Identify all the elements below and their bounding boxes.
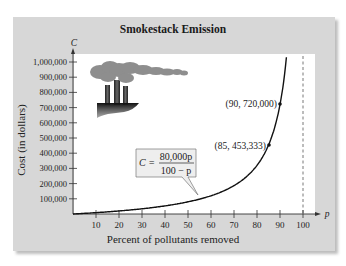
- y-tick-label: 700,000: [39, 103, 67, 113]
- y-tick-label: 1,000,000: [33, 57, 67, 67]
- x-tick-label: 10: [92, 220, 102, 230]
- y-tick-label: 800,000: [39, 87, 67, 97]
- x-tick-label: 30: [138, 220, 148, 230]
- x-tick-label: 90: [276, 220, 286, 230]
- chart-svg: C p 100,000200,000300,000400,000500,0006…: [0, 0, 346, 266]
- x-tick-label: 100: [296, 220, 310, 230]
- point-85: [267, 143, 271, 147]
- y-tick-label: 500,000: [39, 133, 67, 143]
- y-axis-ticks: 100,000200,000300,000400,000500,000600,0…: [33, 57, 77, 204]
- formula-lhs: C =: [139, 157, 155, 168]
- formula-callout: C = 80,000p 100 − p: [136, 149, 198, 195]
- x-axis-ticks: 102030405060708090100: [92, 210, 311, 230]
- y-tick-label: 400,000: [39, 148, 67, 158]
- x-axis: [73, 212, 321, 216]
- y-tick-label: 300,000: [39, 163, 67, 173]
- x-tick-label: 50: [184, 220, 194, 230]
- y-tick-label: 900,000: [39, 72, 67, 82]
- x-tick-label: 80: [253, 220, 263, 230]
- point-90: [278, 102, 282, 106]
- y-tick-label: 200,000: [39, 179, 67, 189]
- formula-denominator: 100 − p: [161, 165, 192, 176]
- y-axis-var: C: [71, 38, 78, 48]
- x-tick-label: 70: [230, 220, 240, 230]
- x-tick-label: 40: [161, 220, 171, 230]
- point-90-label: (90, 720,000): [226, 99, 277, 110]
- y-axis: [71, 48, 75, 214]
- y-tick-label: 600,000: [39, 118, 67, 128]
- y-tick-label: 100,000: [39, 194, 67, 204]
- point-85-label: (85, 453,333): [215, 141, 266, 152]
- formula-numerator: 80,000p: [160, 151, 193, 162]
- x-axis-var: p: [324, 209, 330, 219]
- factory-smoke-icon: [90, 61, 188, 118]
- x-tick-label: 20: [115, 220, 125, 230]
- x-tick-label: 60: [207, 220, 217, 230]
